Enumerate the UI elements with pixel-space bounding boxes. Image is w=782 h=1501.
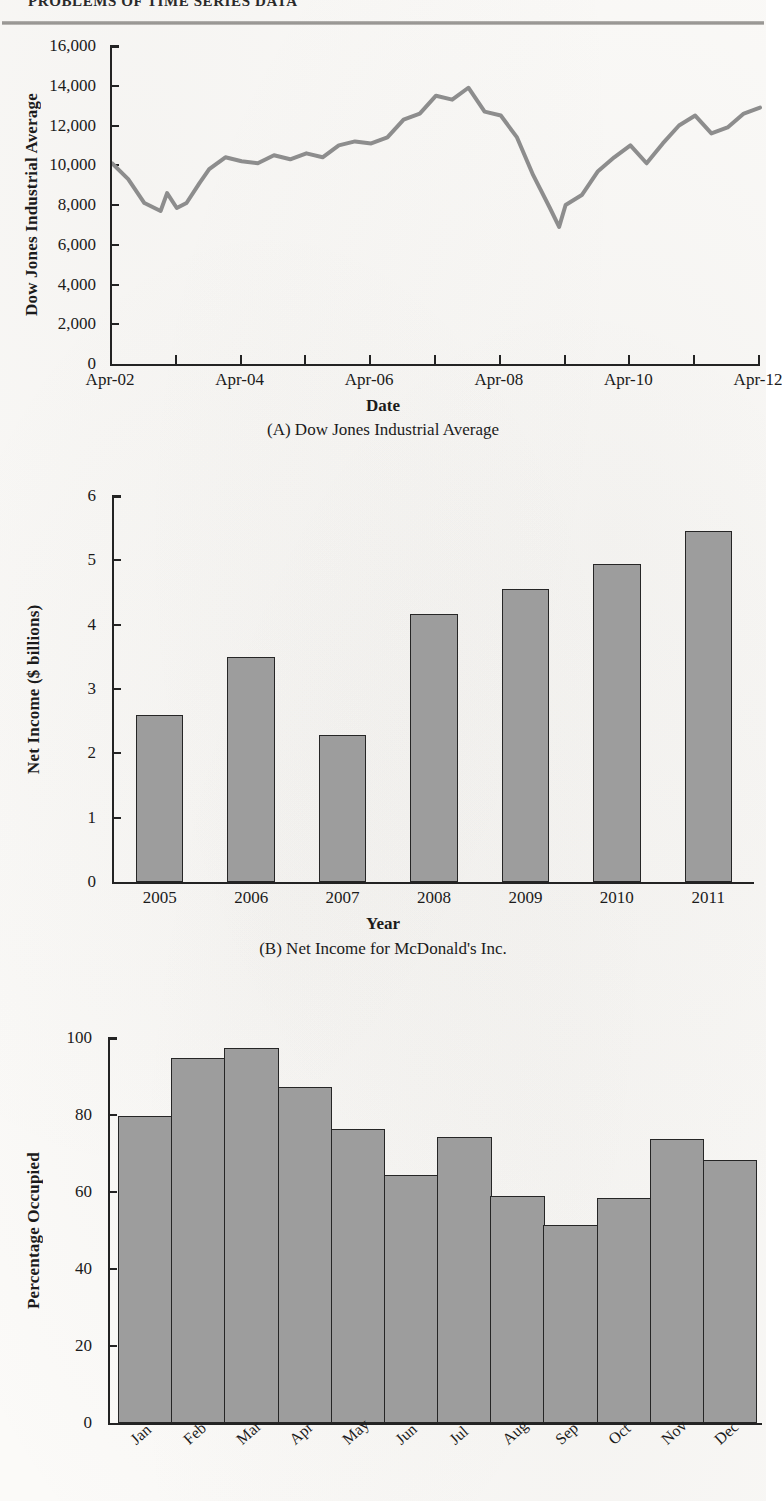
x-tick-label-c: Jul (446, 1423, 472, 1449)
y-tick-label-b: 3 (0, 679, 96, 699)
y-tick-label-a: 16,000 (0, 36, 96, 56)
header-rule (2, 21, 764, 25)
y-tick-label-c: 80 (0, 1105, 92, 1125)
x-axis-label-b: Year (0, 914, 766, 934)
bar-net-income (502, 589, 550, 882)
bar-percentage-occupied (224, 1048, 279, 1423)
figure-a-dow-jones: Dow Jones Industrial Average02,0004,0006… (0, 34, 766, 464)
x-tick-label-b: 2011 (692, 888, 725, 908)
y-tick-label-b: 5 (0, 550, 96, 570)
y-axis-c (108, 1038, 110, 1424)
bar-percentage-occupied (278, 1087, 333, 1423)
figure-caption-b: (B) Net Income for McDonald's Inc. (0, 939, 766, 959)
y-tick-label-c: 60 (0, 1182, 92, 1202)
y-axis-top-cap-c (108, 1038, 117, 1040)
y-tick-label-a: 12,000 (0, 116, 96, 136)
x-tick-label-b: 2009 (508, 888, 542, 908)
x-axis-label-a: Date (0, 396, 766, 416)
y-tick-label-c: 100 (0, 1028, 92, 1048)
x-tick-label-b: 2010 (600, 888, 634, 908)
x-tick-label-a: Apr-08 (474, 370, 523, 390)
bar-percentage-occupied (543, 1225, 598, 1423)
y-tick-label-b: 0 (0, 872, 96, 892)
y-tick-label-a: 4,000 (0, 275, 96, 295)
dow-jones-line-series (112, 46, 764, 368)
bar-percentage-occupied (490, 1196, 545, 1423)
bar-percentage-occupied (331, 1129, 386, 1423)
y-tick-label-c: 0 (0, 1413, 92, 1433)
bar-percentage-occupied (703, 1160, 758, 1423)
y-tick-label-b: 4 (0, 615, 96, 635)
x-tick-label-b: 2007 (326, 888, 360, 908)
bar-percentage-occupied (597, 1198, 652, 1423)
bar-net-income (593, 564, 641, 882)
y-tick-label-a: 10,000 (0, 155, 96, 175)
x-tick-label-a: Apr-12 (734, 370, 782, 390)
x-tick-label-a: Apr-06 (345, 370, 394, 390)
y-tick-label-a: 8,000 (0, 195, 96, 215)
y-tick-label-b: 2 (0, 743, 96, 763)
bar-percentage-occupied (437, 1137, 492, 1423)
bar-percentage-occupied (171, 1058, 226, 1423)
x-tick-label-a: Apr-04 (215, 370, 264, 390)
bar-net-income (319, 735, 367, 882)
y-tick-label-b: 6 (0, 486, 96, 506)
bar-net-income (410, 614, 458, 882)
x-tick-label-a: Apr-02 (86, 370, 135, 390)
y-axis-top-cap-b (112, 496, 121, 498)
y-tick-label-a: 0 (0, 354, 96, 374)
bar-percentage-occupied (118, 1116, 173, 1423)
x-tick-label-b: 2006 (234, 888, 268, 908)
y-axis-b (112, 496, 114, 883)
bar-percentage-occupied (384, 1175, 439, 1423)
bar-net-income (685, 531, 733, 882)
x-tick-label-b: 2005 (143, 888, 177, 908)
y-tick-label-a: 14,000 (0, 76, 96, 96)
figure-b-net-income: Net Income ($ billions)01234562005200620… (0, 486, 766, 1026)
x-axis-b (112, 882, 754, 884)
bar-percentage-occupied (650, 1139, 705, 1423)
running-head: PROBLEMS OF TIME SERIES DATA (28, 0, 298, 10)
figure-caption-a: (A) Dow Jones Industrial Average (0, 420, 766, 440)
y-axis-label-c: Percentage Occupied (24, 1038, 44, 1423)
x-tick-label-b: 2008 (417, 888, 451, 908)
y-tick-label-b: 1 (0, 808, 96, 828)
y-tick-label-a: 6,000 (0, 235, 96, 255)
bar-net-income (227, 657, 275, 882)
x-tick-label-a: Apr-10 (604, 370, 653, 390)
x-axis-c (108, 1423, 762, 1425)
y-tick-label-c: 40 (0, 1259, 92, 1279)
y-tick-label-a: 2,000 (0, 314, 96, 334)
y-tick-label-c: 20 (0, 1336, 92, 1356)
figure-c-percentage-occupied: Percentage Occupied020406080100JanFebMar… (0, 1030, 766, 1501)
bar-net-income (136, 715, 184, 882)
